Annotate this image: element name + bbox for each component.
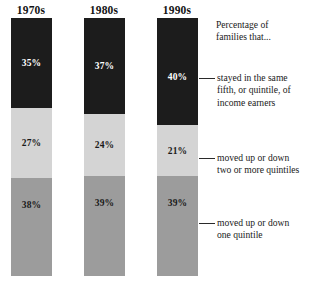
legend-item-two-or-more: moved up or down two or more quintiles xyxy=(217,152,318,177)
bar-1970s-segment-stayed: 35% xyxy=(11,18,52,108)
legend-item-stayed-line-3: income earners xyxy=(217,97,318,109)
leader-line-one-quintile xyxy=(199,223,215,224)
bar-1970s-label-stayed: 35% xyxy=(11,58,52,68)
bar-1990s-label-two-or-more: 21% xyxy=(157,146,198,156)
legend-item-stayed-line-2: fifth, or quintile, of xyxy=(217,84,318,96)
bar-1990s-label-one-quintile: 39% xyxy=(157,198,198,208)
legend-item-one-quintile-line-1: moved up or down xyxy=(217,217,318,229)
bar-1970s: 35% 27% 38% xyxy=(11,18,52,276)
bar-1970s-label-two-or-more: 27% xyxy=(11,138,52,148)
legend-item-two-or-more-line-1: moved up or down xyxy=(217,152,318,164)
legend-item-one-quintile-line-2: one quintile xyxy=(217,229,318,241)
bar-1970s-label-one-quintile: 38% xyxy=(11,200,52,210)
bar-1990s-segment-one-quintile: 39% xyxy=(157,176,198,276)
chart-caption-line-1: Percentage of xyxy=(216,19,318,31)
legend-item-stayed-line-1: stayed in the same xyxy=(217,72,318,84)
chart-caption-line-2: families that... xyxy=(216,31,318,43)
legend-item-stayed: stayed in the same fifth, or quintile, o… xyxy=(217,72,318,109)
column-header-1970s: 1970s xyxy=(3,4,59,16)
bar-1970s-segment-one-quintile: 38% xyxy=(11,178,52,276)
bar-1990s-label-stayed: 40% xyxy=(157,72,198,82)
stacked-bar-chart: 1970s 1980s 1990s 35% 27% 38% 37% 24% 39… xyxy=(0,0,318,289)
bar-1980s-label-one-quintile: 39% xyxy=(84,198,125,208)
bar-1980s: 37% 24% 39% xyxy=(84,18,125,276)
bar-1990s-segment-stayed: 40% xyxy=(157,18,198,125)
bar-1980s-segment-one-quintile: 39% xyxy=(84,176,125,276)
bar-1990s-segment-two-or-more: 21% xyxy=(157,125,198,176)
column-header-1990s: 1990s xyxy=(149,4,205,16)
bar-1980s-segment-stayed: 37% xyxy=(84,18,125,114)
bar-1990s: 40% 21% 39% xyxy=(157,18,198,276)
legend-item-two-or-more-line-2: two or more quintiles xyxy=(217,164,318,176)
column-header-1980s: 1980s xyxy=(76,4,132,16)
bar-1980s-label-two-or-more: 24% xyxy=(84,140,125,150)
legend-item-one-quintile: moved up or down one quintile xyxy=(217,217,318,242)
bar-1980s-segment-two-or-more: 24% xyxy=(84,114,125,176)
bar-1980s-label-stayed: 37% xyxy=(84,61,125,71)
leader-line-stayed xyxy=(199,78,215,79)
bar-1970s-segment-two-or-more: 27% xyxy=(11,108,52,178)
leader-line-two-or-more xyxy=(199,158,215,159)
chart-caption: Percentage of families that... xyxy=(216,19,318,44)
